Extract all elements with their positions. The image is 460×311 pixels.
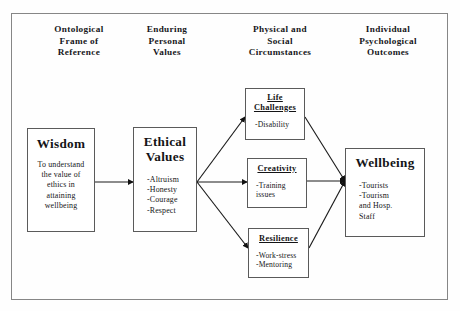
node-ethical-values-body-line: -Courage — [147, 195, 196, 205]
node-life-challenges-body: -Disability — [246, 120, 304, 129]
node-wisdom-title: Wisdom — [28, 136, 94, 151]
node-wellbeing-title: Wellbeing — [346, 155, 424, 170]
column-header-line: Outcomes — [336, 47, 440, 59]
node-wisdom-body: To understand the value of ethics in att… — [28, 160, 94, 211]
node-creativity-title: Creativity — [248, 164, 306, 174]
node-wisdom[interactable]: Wisdom To understand the value of ethics… — [27, 128, 95, 232]
node-wisdom-body-line: To understand — [28, 160, 94, 170]
node-life-challenges-title: Life Challenges — [246, 93, 304, 113]
node-resilience[interactable]: Resilience -Work-stress -Mentoring — [248, 228, 309, 278]
node-creativity-body-line: issues — [256, 190, 306, 199]
diagram-canvas: Ontological Frame of Reference Enduring … — [0, 0, 460, 311]
column-header-line: Reference — [27, 47, 131, 59]
node-wellbeing-body: -Tourists -Tourism and Hosp. Staff — [346, 181, 424, 222]
node-ethical-values[interactable]: Ethical Values -Altruism -Honesty -Coura… — [133, 127, 197, 232]
node-resilience-title-line: Resilience — [249, 234, 308, 244]
node-wisdom-body-line: attaining — [28, 191, 94, 201]
column-header-line: Frame of — [27, 36, 131, 48]
node-life-challenges-title-line: Life — [246, 93, 304, 103]
column-header-line: Physical and — [222, 24, 338, 36]
node-creativity-title-line: Creativity — [248, 164, 306, 174]
column-header-line: Circumstances — [222, 47, 338, 59]
node-resilience-body-line: -Work-stress — [256, 251, 308, 260]
node-life-challenges[interactable]: Life Challenges -Disability — [245, 88, 305, 140]
column-header-ontological-frame-of-reference: Ontological Frame of Reference — [27, 24, 131, 59]
node-wisdom-body-line: ethics in — [28, 180, 94, 190]
column-header-line: Psychological — [336, 36, 440, 48]
node-ethical-values-title-line: Values — [134, 149, 196, 164]
column-header-line: Enduring — [122, 24, 212, 36]
node-wellbeing[interactable]: Wellbeing -Tourists -Tourism and Hosp. S… — [345, 148, 425, 237]
column-header-line: Values — [122, 47, 212, 59]
column-header-line: Social — [222, 36, 338, 48]
column-header-line: Personal — [122, 36, 212, 48]
node-resilience-title: Resilience — [249, 234, 308, 244]
node-resilience-body: -Work-stress -Mentoring — [249, 251, 308, 270]
node-wisdom-body-line: the value of — [28, 170, 94, 180]
node-creativity[interactable]: Creativity -Training issues — [247, 158, 307, 208]
node-wellbeing-body-line: -Tourists — [359, 181, 424, 191]
node-life-challenges-title-line: Challenges — [246, 103, 304, 113]
column-header-individual-psychological-outcomes: Individual Psychological Outcomes — [336, 24, 440, 59]
node-creativity-body: -Training issues — [248, 181, 306, 200]
column-header-line: Individual — [336, 24, 440, 36]
node-wisdom-body-line: wellbeing — [28, 201, 94, 211]
node-resilience-body-line: -Mentoring — [256, 260, 308, 269]
column-header-physical-and-social-circumstances: Physical and Social Circumstances — [222, 24, 338, 59]
node-ethical-values-body: -Altruism -Honesty -Courage -Respect — [134, 175, 196, 216]
node-ethical-values-title-line: Ethical — [134, 134, 196, 149]
node-ethical-values-title: Ethical Values — [134, 134, 196, 164]
node-ethical-values-body-line: -Respect — [147, 206, 196, 216]
node-ethical-values-body-line: -Altruism — [147, 175, 196, 185]
column-header-enduring-personal-values: Enduring Personal Values — [122, 24, 212, 59]
node-wellbeing-body-line: and Hosp. — [359, 201, 424, 211]
node-wellbeing-body-line: -Tourism — [359, 191, 424, 201]
node-ethical-values-body-line: -Honesty — [147, 185, 196, 195]
node-life-challenges-body-line: -Disability — [255, 120, 304, 129]
column-header-line: Ontological — [27, 24, 131, 36]
node-wellbeing-body-line: Staff — [359, 212, 424, 222]
node-creativity-body-line: -Training — [256, 181, 306, 190]
